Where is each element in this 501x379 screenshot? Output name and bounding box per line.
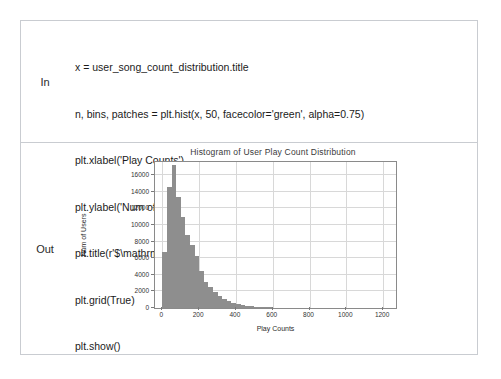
x-tick-mark-600 (272, 307, 273, 310)
y-tick-label-14000: 14000 (99, 187, 149, 194)
y-tick-mark-0 (151, 307, 154, 308)
x-tick-label-600: 600 (266, 311, 277, 318)
x-tick-label-1000: 1000 (338, 311, 352, 318)
x-tick-mark-200 (198, 307, 199, 310)
y-tick-mark-12000 (151, 207, 154, 208)
code-line-2: n, bins, patches = plt.hist(x, 50, facec… (75, 107, 471, 123)
x-tick-label-200: 200 (193, 311, 204, 318)
x-tick-label-800: 800 (303, 311, 314, 318)
y-tick-label-10000: 10000 (99, 221, 149, 228)
y-tick-mark-4000 (151, 274, 154, 275)
input-cell[interactable]: In x = user_song_count_distribution.titl… (21, 21, 477, 143)
y-tick-mark-8000 (151, 241, 154, 242)
x-tick-mark-800 (309, 307, 310, 310)
plot-frame (154, 161, 397, 309)
code-line-1: x = user_song_count_distribution.title (75, 60, 471, 76)
chart-title: Histogram of User Play Count Distributio… (69, 147, 477, 157)
y-tick-mark-16000 (151, 174, 154, 175)
y-tick-label-12000: 12000 (99, 204, 149, 211)
y-tick-label-6000: 6000 (99, 254, 149, 261)
x-tick-label-400: 400 (230, 311, 241, 318)
y-axis-label: Num of Users (80, 214, 87, 257)
y-tick-label-2000: 2000 (99, 287, 149, 294)
x-tick-label-0: 0 (160, 311, 164, 318)
y-tick-label-0: 0 (99, 304, 149, 311)
histogram-figure: Histogram of User Play Count Distributio… (69, 143, 477, 355)
notebook-cell-container: In x = user_song_count_distribution.titl… (20, 20, 478, 355)
output-cell-body: Histogram of User Play Count Distributio… (69, 143, 477, 355)
y-tick-label-4000: 4000 (99, 270, 149, 277)
input-prompt-label: In (21, 21, 69, 142)
y-tick-label-8000: 8000 (99, 237, 149, 244)
y-tick-mark-6000 (151, 257, 154, 258)
output-prompt-label: Out (21, 143, 69, 355)
x-tick-mark-400 (235, 307, 236, 310)
y-tick-mark-10000 (151, 224, 154, 225)
histogram-bars (155, 162, 396, 308)
x-tick-mark-1200 (382, 307, 383, 310)
input-cell-body[interactable]: x = user_song_count_distribution.title n… (69, 21, 477, 142)
x-tick-mark-1000 (345, 307, 346, 310)
x-tick-label-1200: 1200 (375, 311, 389, 318)
y-tick-mark-14000 (151, 191, 154, 192)
x-tick-mark-0 (161, 307, 162, 310)
x-axis-label: Play Counts (154, 325, 397, 332)
y-tick-label-16000: 16000 (99, 171, 149, 178)
y-tick-mark-2000 (151, 290, 154, 291)
output-cell: Out Histogram of User Play Count Distrib… (21, 143, 477, 355)
